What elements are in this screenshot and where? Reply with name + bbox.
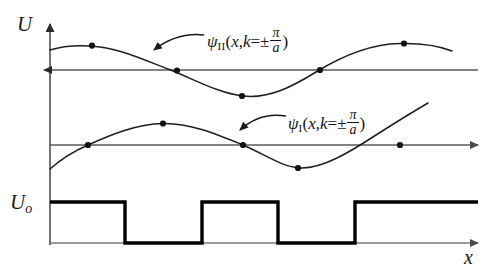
wave-psi-I bbox=[50, 103, 428, 169]
wave-label-psi-I: ψI(x,k=±πa) bbox=[288, 108, 365, 138]
y-axis-label: U bbox=[17, 12, 32, 37]
plus-minus-sign: ± bbox=[260, 32, 269, 51]
wave-marker-point bbox=[174, 67, 180, 73]
wave-marker-point bbox=[240, 142, 246, 148]
equals-sign: = bbox=[251, 32, 261, 51]
equals-sign: = bbox=[328, 114, 338, 133]
wave-marker-point bbox=[160, 120, 166, 126]
fraction-numerator: π bbox=[347, 108, 358, 122]
fraction-numerator: π bbox=[270, 26, 281, 40]
annotation-arrow-psi-II bbox=[154, 35, 204, 50]
annotation-arrow-psi-I bbox=[240, 115, 286, 130]
x-axis-label: x bbox=[464, 246, 473, 269]
potential-level-symbol: U bbox=[10, 190, 25, 214]
fraction-denominator: a bbox=[270, 40, 281, 55]
psi-symbol: ψ bbox=[207, 32, 218, 51]
wave-marker-point bbox=[401, 40, 407, 46]
paren-close: ) bbox=[282, 32, 288, 51]
wave-marker-point bbox=[295, 165, 301, 171]
variable-k: k bbox=[320, 114, 328, 133]
psi-subscript: II bbox=[218, 40, 226, 52]
pi-over-a-fraction: πa bbox=[347, 108, 358, 138]
variable-x: x bbox=[231, 32, 239, 51]
periodic-square-potential bbox=[50, 202, 478, 243]
potential-level-subscript: o bbox=[25, 201, 32, 216]
variable-x: x bbox=[308, 114, 316, 133]
wave-marker-point bbox=[85, 142, 91, 148]
wave-marker-point bbox=[239, 93, 245, 99]
paren-close: ) bbox=[360, 114, 366, 133]
pi-over-a-fraction: πa bbox=[270, 26, 281, 56]
wave-label-psi-II: ψII(x,k=±πa) bbox=[207, 26, 288, 56]
potential-level-label: Uo bbox=[10, 190, 32, 217]
fraction-denominator: a bbox=[347, 122, 358, 137]
wave-marker-point bbox=[89, 43, 95, 49]
figure-root: U Uo x ψII(x,k=±πa) ψI(x,k=±πa) bbox=[0, 0, 492, 275]
variable-k: k bbox=[243, 32, 251, 51]
wave-marker-point bbox=[317, 67, 323, 73]
plus-minus-sign: ± bbox=[337, 114, 346, 133]
psi-symbol: ψ bbox=[288, 114, 299, 133]
wave-marker-point bbox=[397, 142, 403, 148]
